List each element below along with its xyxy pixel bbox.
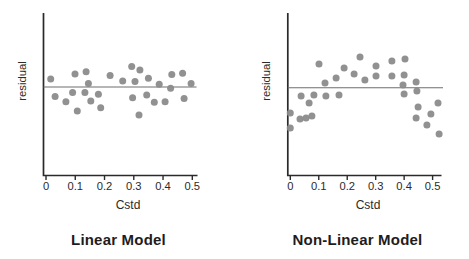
data-point: [351, 70, 358, 77]
data-points: [47, 63, 194, 118]
data-point: [322, 93, 329, 100]
data-point: [85, 80, 92, 87]
chart-linear-model: 00.10.20.30.40.5 Cstd residual Linear Mo…: [16, 13, 201, 248]
data-point: [143, 92, 150, 99]
data-point: [151, 99, 158, 106]
data-point: [306, 100, 313, 107]
residual-plots-svg: 00.10.20.30.40.5 Cstd residual Linear Mo…: [0, 0, 469, 259]
data-point: [373, 63, 380, 70]
data-point: [72, 71, 79, 78]
data-point: [87, 98, 94, 105]
data-point: [423, 121, 430, 128]
data-point: [333, 75, 340, 82]
y-axis-label: residual: [16, 61, 28, 101]
x-tick-label: 0.5: [425, 180, 441, 192]
data-point: [95, 91, 102, 98]
data-point: [74, 108, 81, 115]
data-point: [413, 79, 420, 86]
data-point: [341, 64, 348, 71]
data-point: [168, 71, 175, 78]
data-point: [287, 124, 294, 131]
data-point: [435, 100, 442, 107]
x-axis-label: Cstd: [116, 198, 141, 212]
x-tick-label: 0.4: [396, 180, 412, 192]
data-point: [179, 70, 186, 77]
data-point: [83, 68, 90, 75]
x-tick-label: 0: [43, 180, 49, 192]
data-point: [357, 54, 364, 61]
axes-lines: [44, 13, 198, 176]
data-point: [119, 78, 126, 85]
data-point: [81, 89, 88, 96]
x-tick-label: 0.2: [339, 180, 355, 192]
data-point: [188, 80, 195, 87]
data-point: [52, 93, 59, 100]
data-point: [97, 104, 104, 111]
data-point: [69, 89, 76, 96]
data-point: [47, 75, 54, 82]
chart-title: Non-Linear Model: [293, 231, 423, 248]
data-point: [62, 98, 69, 105]
data-point: [310, 91, 317, 98]
data-point: [415, 103, 422, 110]
x-tick-label: 0.1: [311, 180, 327, 192]
data-point: [336, 91, 343, 98]
data-point: [413, 88, 420, 95]
y-axis-label: residual: [260, 61, 272, 101]
data-point: [436, 130, 443, 137]
data-point: [400, 82, 407, 89]
data-point: [388, 58, 395, 65]
x-tick-label: 0.5: [185, 180, 201, 192]
data-point: [427, 111, 434, 118]
data-point: [145, 75, 152, 82]
data-point: [136, 111, 143, 118]
data-point: [298, 93, 305, 100]
x-axis-label: Cstd: [356, 198, 381, 212]
x-tick-label: 0.3: [368, 180, 384, 192]
x-tick-labels: 00.10.20.30.40.5: [287, 180, 440, 192]
data-point: [316, 61, 323, 68]
data-point: [167, 85, 174, 92]
x-tick-labels: 00.10.20.30.40.5: [43, 180, 200, 192]
data-point: [287, 109, 294, 116]
data-point: [129, 94, 136, 101]
data-point: [402, 55, 409, 62]
chart-non-linear-model: 00.10.20.30.40.5 Cstd residual Non-Linea…: [260, 13, 443, 248]
x-tick-label: 0.2: [97, 180, 113, 192]
data-point: [128, 63, 135, 70]
chart-title: Linear Model: [71, 231, 166, 248]
data-point: [107, 72, 114, 79]
data-point: [181, 95, 188, 102]
data-point: [413, 115, 420, 122]
data-point: [156, 81, 163, 88]
x-tick-label: 0.4: [155, 180, 171, 192]
data-point: [361, 76, 368, 83]
data-point: [373, 73, 380, 80]
data-points: [287, 54, 443, 138]
x-tick-label: 0.1: [67, 180, 83, 192]
data-point: [322, 79, 329, 86]
x-tick-label: 0: [287, 180, 293, 192]
figure-canvas: 00.10.20.30.40.5 Cstd residual Linear Mo…: [0, 0, 469, 259]
data-point: [401, 72, 408, 79]
data-point: [388, 73, 395, 80]
data-point: [132, 78, 139, 85]
data-point: [401, 91, 408, 98]
data-point: [308, 112, 315, 119]
data-point: [136, 66, 143, 73]
data-point: [162, 98, 169, 105]
x-tick-label: 0.3: [126, 180, 142, 192]
data-point: [297, 115, 304, 122]
